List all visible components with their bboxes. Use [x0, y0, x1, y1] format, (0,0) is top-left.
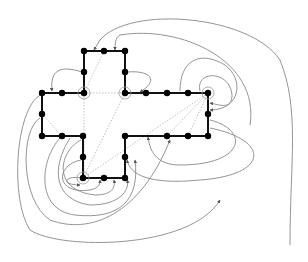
cross-polygon-diagram: [0, 0, 308, 262]
